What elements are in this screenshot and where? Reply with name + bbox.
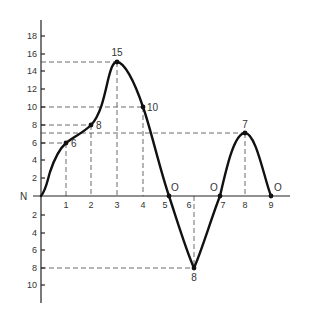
y-tick-label: 6: [32, 138, 37, 148]
origin-label: N: [20, 191, 27, 202]
point-marker: [115, 60, 120, 65]
y-tick-label: 8: [32, 120, 37, 130]
dashed-guides: [41, 62, 245, 268]
y-tick-label: 12: [27, 84, 37, 94]
point-label: O: [171, 182, 179, 193]
y-ticks-above: 2 4 6 8 10 12 14 16 18: [27, 31, 45, 183]
point-marker: [64, 141, 69, 146]
x-tick-label: 5: [162, 200, 167, 210]
y-tick-label: 18: [27, 31, 37, 41]
chart-canvas: N 2 4 6 8 10 12 14 16 18 2 4 6 8 10 1: [0, 0, 311, 318]
y-tick-label: 2: [32, 173, 37, 183]
y-tick-label: 10: [27, 280, 37, 290]
point-marker: [243, 131, 248, 136]
point-label: 10: [147, 102, 159, 113]
point-label: 6: [71, 138, 77, 149]
point-marker: [89, 123, 94, 128]
x-tick-label: 6: [186, 200, 191, 210]
point-marker: [167, 194, 172, 199]
data-points: [64, 60, 274, 271]
point-label: 15: [111, 47, 123, 58]
wave-curve: [41, 62, 271, 268]
axes: N: [20, 20, 290, 303]
point-marker: [269, 194, 274, 199]
y-tick-label: 14: [27, 66, 37, 76]
y-tick-label: 4: [32, 155, 37, 165]
point-marker: [141, 105, 146, 110]
point-label: 8: [191, 272, 197, 283]
x-tick-label: 7: [220, 200, 225, 210]
x-ticks: 1 2 3 4 5 6 7 8 9: [63, 200, 273, 210]
x-tick-label: 2: [88, 200, 93, 210]
point-marker: [218, 194, 223, 199]
y-tick-label: 10: [27, 102, 37, 112]
y-ticks-below: 2 4 6 8 10: [27, 210, 45, 290]
x-tick-label: 3: [114, 200, 119, 210]
point-marker: [192, 266, 197, 271]
y-tick-label: 2: [32, 210, 37, 220]
y-tick-label: 16: [27, 49, 37, 59]
x-tick-label: 8: [242, 200, 247, 210]
x-tick-label: 9: [268, 200, 273, 210]
point-label: O: [210, 182, 218, 193]
y-tick-label: 6: [32, 245, 37, 255]
point-labels: 6 8 15 10 O 8 O 7 O: [71, 47, 282, 283]
point-label: O: [274, 182, 282, 193]
y-tick-label: 4: [32, 228, 37, 238]
x-tick-label: 4: [140, 200, 145, 210]
point-label: 7: [242, 119, 248, 130]
point-label: 8: [96, 120, 102, 131]
x-tick-label: 1: [63, 200, 68, 210]
y-tick-label: 8: [32, 263, 37, 273]
